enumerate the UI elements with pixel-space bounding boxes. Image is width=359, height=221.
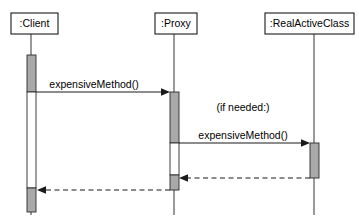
- message-label-2: expensiveMethod(): [198, 129, 287, 141]
- return-proxy-to-client: [37, 186, 170, 194]
- arrowhead-left-2: [37, 186, 46, 194]
- arrowhead-right-2: [301, 139, 310, 147]
- activation-bar-client-3: [27, 188, 36, 212]
- activation-bar-realactiveclass-1: [310, 143, 319, 178]
- return-realactiveclass-to-proxy: [179, 174, 310, 182]
- lifeline-head-client[interactable]: :Client: [11, 13, 58, 34]
- activation-bar-proxy-1: [170, 92, 179, 143]
- message-client-to-proxy: expensiveMethod(): [36, 78, 170, 96]
- arrowhead-right-1: [161, 88, 170, 96]
- activation-bar-client-2: [27, 92, 36, 188]
- message-proxy-to-realactiveclass: (if needed:) expensiveMethod(): [179, 101, 310, 147]
- activation-bar-client-1: [27, 55, 36, 92]
- lifeline-label-realactiveclass: :RealActiveClass: [270, 17, 349, 29]
- sequence-diagram-svg: expensiveMethod() (if needed:) expensive…: [0, 0, 359, 221]
- sequence-diagram-canvas: expensiveMethod() (if needed:) expensive…: [0, 0, 359, 221]
- lifeline-head-realactiveclass[interactable]: :RealActiveClass: [265, 13, 354, 34]
- lifeline-label-client: :Client: [20, 17, 50, 29]
- activation-bar-proxy-2: [170, 143, 179, 175]
- message-label-1: expensiveMethod(): [49, 78, 138, 90]
- message-note-if-needed: (if needed:): [216, 101, 269, 113]
- arrowhead-left-1: [179, 174, 188, 182]
- activation-bar-proxy-3: [170, 175, 179, 190]
- lifeline-head-proxy[interactable]: :Proxy: [155, 13, 197, 34]
- lifeline-label-proxy: :Proxy: [161, 17, 192, 29]
